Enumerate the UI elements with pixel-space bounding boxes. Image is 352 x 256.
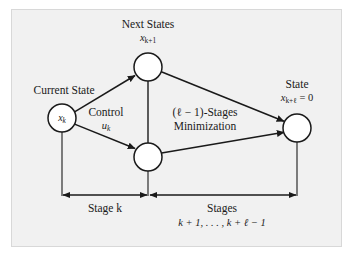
terminal-state-math-sub: k+ℓ [285,96,296,105]
control-math-sub: k [107,124,110,133]
terminal-state-math-label: xk+ℓ = 0 [250,92,344,104]
edge-bottom-to-terminal [162,132,284,153]
drop-line-group [62,132,297,196]
terminal-state-math-tail: = 0 [297,92,313,103]
terminal-state-node[interactable] [283,114,311,142]
minimization-label-line1: (ℓ − 1)-Stages [152,106,258,118]
next-states-math-sub: k+1 [145,36,157,45]
current-state-node-label: xk [48,112,76,125]
stages-label: Stages [172,202,272,214]
control-label: Control [78,106,134,118]
next-state-top-node[interactable] [134,53,162,81]
terminal-state-label: State [257,78,337,90]
figure-root: xk Next States xk+1 Current State Contro… [0,0,352,256]
next-states-label: Next States [98,18,198,30]
next-state-bottom-node[interactable] [134,143,162,171]
current-state-node-label-sub: k [63,116,66,125]
current-state-label: Current State [14,84,114,96]
control-math-label: uk [78,120,134,132]
next-states-math-label: xk+1 [98,32,198,44]
stages-range-label: k + 1, . . . , k + ℓ − 1 [160,217,284,228]
stage-k-label: Stage k [55,202,155,214]
minimization-label-line2: Minimization [152,120,258,132]
